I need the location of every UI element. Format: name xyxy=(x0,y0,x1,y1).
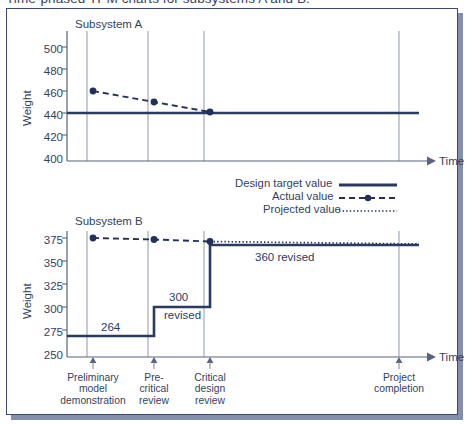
chart-a-actual-point-3 xyxy=(207,109,214,116)
legend-swatch-design-target xyxy=(339,177,429,191)
chart-subsystem-a: Subsystem A Weight 500 480 460 440 420 4… xyxy=(7,9,459,189)
chart-a-actual-point-2 xyxy=(151,99,158,106)
milestone-label-critical-design-review: Critical design review xyxy=(182,372,238,406)
chart-a-time-label: Time xyxy=(439,155,464,167)
chart-b-annotation-revised: revised xyxy=(164,309,201,321)
milestone-label-project-completion: Project completion xyxy=(359,372,439,395)
figure-panel: Subsystem A Weight 500 480 460 440 420 4… xyxy=(6,8,458,415)
legend-swatch-actual xyxy=(339,190,429,204)
figure-root: Time-phased TPM charts for subsystems A … xyxy=(0,0,468,424)
chart-b-actual-point-2 xyxy=(151,236,158,243)
chart-b-projected-line xyxy=(210,242,419,245)
chart-b-annotation-360-revised: 360 revised xyxy=(255,251,314,263)
chart-a-x-axis-arrow xyxy=(427,157,436,166)
legend-label-design-target: Design target value xyxy=(235,177,332,189)
chart-a-actual-point-1 xyxy=(90,88,97,95)
chart-a-canvas xyxy=(7,9,459,189)
chart-subsystem-b: Subsystem B Weight 375 350 325 300 275 2… xyxy=(7,209,459,414)
legend-label-actual: Actual value xyxy=(272,190,334,202)
chart-b-annotation-264: 264 xyxy=(101,321,120,333)
chart-b-annotation-300: 300 xyxy=(169,291,188,303)
milestone-label-preliminary-model-demonstration: Preliminary model demonstration xyxy=(51,372,135,406)
chart-b-x-axis-arrow xyxy=(427,353,436,362)
figure-caption: Time-phased TPM charts for subsystems A … xyxy=(6,0,426,6)
chart-b-time-label: Time xyxy=(439,351,464,363)
milestone-label-pre-critical-review: Pre- critical review xyxy=(126,372,182,406)
chart-b-actual-point-1 xyxy=(90,235,97,242)
